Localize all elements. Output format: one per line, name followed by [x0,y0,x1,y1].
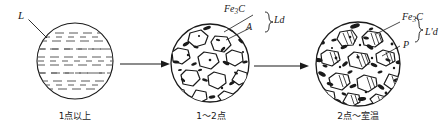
brace-Ld [265,12,273,32]
label-A: A [246,22,252,32]
stage-1-caption: 1点以上 [16,112,134,121]
stage-3-circle [313,18,423,107]
stage-2-caption: 1～2点 [152,112,270,121]
fe3c-right-base: Fe [402,11,413,22]
label-Ld: Ld [274,15,285,25]
label-P: P [403,40,409,50]
arrow-2 [254,63,309,70]
fe3c-mid-tail: C [238,3,245,14]
label-L: L [18,10,24,21]
fe3c-right-tail: C [416,11,423,22]
leader-line-L [29,20,48,39]
stage-2-circle [171,12,273,103]
label-fe3c-mid: Fe3C [224,4,245,16]
label-Lprime-d: L'd [425,27,438,37]
stage-3-caption: 2点～室温 [299,112,417,121]
label-fe3c-right: Fe3C [402,12,423,24]
arrow-1 [120,61,170,68]
stage-1-circle [29,20,117,100]
phase-transformation-figure: L 1点以上 Fe3C A Ld 1～2点 Fe3C P L'd 2点～室温 [0,0,443,131]
fe3c-mid-base: Fe [224,3,235,14]
